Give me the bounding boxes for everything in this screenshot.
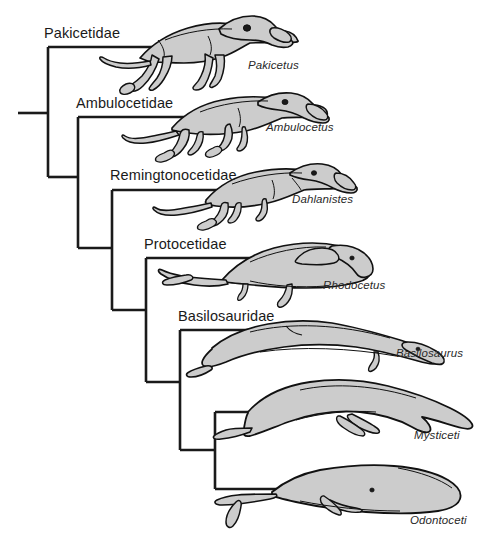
animal-illustrations <box>100 16 473 527</box>
ambulocetus-tail <box>122 131 179 143</box>
clade-label-pakicetidae: Pakicetidae <box>44 26 120 41</box>
dahlanistes-tail <box>153 203 212 215</box>
mysticeti-tail-fluke <box>213 428 252 439</box>
pakicetus-hind-foot-near <box>120 83 135 94</box>
pakicetus-illustration <box>100 16 298 94</box>
rhodocetus-flipper-far <box>238 284 248 300</box>
ambulocetus-hind-foot-near <box>155 150 174 162</box>
taxon-label-dahlanistes: Dahlanistes <box>292 194 353 206</box>
cladogram-canvas <box>0 0 483 547</box>
clade-label-protocetidae: Protocetidae <box>144 237 227 252</box>
rhodocetus-illustration <box>158 243 373 307</box>
ambulocetus-hind-limb-far <box>188 132 203 155</box>
rhodocetus-eye <box>350 256 354 260</box>
pakicetus-eye <box>243 25 250 31</box>
cladogram-figure: Pakicetidae Ambulocetidae Remingtonoceti… <box>0 0 483 547</box>
odontoceti-tail-stock <box>215 494 277 505</box>
taxon-label-odontoceti: Odontoceti <box>410 515 467 527</box>
taxon-label-mysticeti: Mysticeti <box>414 430 460 442</box>
clade-label-basilosauridae: Basilosauridae <box>178 309 275 324</box>
basilosaurus-tail-flukes <box>187 366 213 377</box>
ambulocetus-eye <box>282 99 288 104</box>
clade-label-ambulocetidae: Ambulocetidae <box>76 96 173 111</box>
dahlanistes-hind-foot <box>197 219 216 230</box>
basilosaurus-flipper <box>369 352 379 371</box>
dahlanistes-eye <box>311 171 316 176</box>
taxon-label-rhodocetus: Rhodocetus <box>323 280 385 292</box>
odontoceti-body <box>272 465 461 513</box>
odontoceti-eye <box>370 488 374 492</box>
taxon-label-ambulocetus: Ambulocetus <box>266 122 334 134</box>
taxon-label-pakicetus: Pakicetus <box>248 60 299 72</box>
clade-label-remingtonocetidae: Remingtonocetidae <box>110 168 237 183</box>
taxon-label-basilosaurus: Basilosaurus <box>396 348 463 360</box>
ambulocetus-front-foot-near <box>205 147 221 158</box>
